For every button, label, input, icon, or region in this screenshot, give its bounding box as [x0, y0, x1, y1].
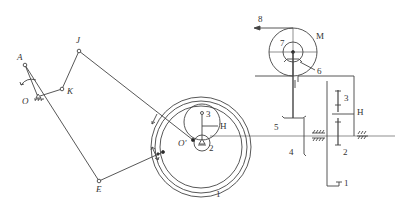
- label-part-6: 6: [317, 66, 322, 76]
- label-right-gear-3: 3: [344, 93, 349, 103]
- label-A: A: [16, 52, 23, 62]
- label-gear-4: 4: [289, 147, 294, 157]
- label-motor-M: M: [316, 31, 324, 41]
- label-O: O: [22, 96, 29, 106]
- joint-E: [97, 179, 101, 183]
- link-OK: [40, 89, 62, 96]
- label-Oprime: O': [178, 138, 187, 148]
- bearing-right-icon: [357, 131, 368, 139]
- label-gear-1: 1: [216, 189, 221, 199]
- label-pulley-7: 7: [280, 38, 285, 48]
- bearing-left-icon: [312, 130, 325, 141]
- gear-1-frame: [327, 81, 339, 186]
- label-right-gear-1: 1: [344, 178, 349, 188]
- label-gear-2: 2: [209, 143, 214, 153]
- link-KJ: [62, 51, 79, 89]
- belt-arrow-icon: [254, 26, 260, 30]
- mechanism-diagram: A O K J E O' 1 2 3 H 8 M 7 6 5 4 3 H 2 1: [0, 0, 395, 213]
- label-J: J: [76, 35, 81, 45]
- label-right-gear-2: 2: [343, 147, 348, 157]
- bevel-gear-5: [282, 116, 306, 118]
- label-gear-3: 3: [206, 109, 211, 119]
- label-right-H: H: [357, 107, 364, 117]
- ring-rotation-arrow-upper-icon: [152, 114, 157, 124]
- link-J-Oprime: [79, 51, 193, 140]
- joint-J: [77, 49, 81, 53]
- label-E: E: [95, 184, 102, 194]
- label-gear-5: 5: [274, 122, 279, 132]
- carrier-frame: [298, 76, 354, 136]
- joint-K: [60, 87, 64, 91]
- planet-center: [201, 112, 204, 115]
- bevel-gear-4: [304, 118, 306, 156]
- joint-A: [23, 63, 27, 67]
- label-belt-8: 8: [258, 14, 263, 24]
- link-A-E: [25, 65, 99, 181]
- joint-Oprime: [191, 138, 194, 141]
- link-AO: [25, 65, 38, 97]
- label-H: H: [220, 121, 227, 131]
- link-E-ring: [99, 152, 163, 181]
- label-K: K: [66, 86, 74, 96]
